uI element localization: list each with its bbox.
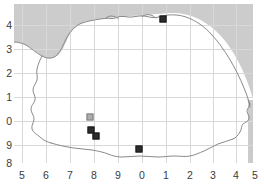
x-tick-label: 1 [163,170,169,181]
y-tick-label: 4 [3,20,12,31]
data-point-marker[interactable] [93,133,100,140]
map-plot-area [14,4,253,163]
data-point-marker-open[interactable] [87,114,94,121]
y-tick-label: 3 [3,44,12,55]
y-tick-label: 8 [3,158,12,169]
data-point-marker[interactable] [160,16,167,23]
y-tick-label: 1 [3,92,12,103]
distribution-map-figure: 5 6 7 8 9 0 1 2 3 4 5 4 3 2 1 0 9 8 [0,0,264,186]
x-tick-label: 3 [210,170,216,181]
map-canvas [14,4,253,163]
x-tick-label: 0 [139,170,145,181]
x-tick-label: 7 [67,170,73,181]
x-tick-label: 5 [19,170,25,181]
x-tick-label: 6 [43,170,49,181]
x-tick-label: 5 [252,170,258,181]
y-tick-label: 9 [3,140,12,151]
y-tick-label: 2 [3,68,12,79]
x-tick-label: 8 [91,170,97,181]
x-tick-label: 2 [187,170,193,181]
y-tick-label: 0 [3,116,12,127]
x-tick-label: 9 [115,170,121,181]
x-tick-label: 4 [233,170,239,181]
sea-shading-layer [14,4,253,163]
data-point-marker[interactable] [136,146,143,153]
